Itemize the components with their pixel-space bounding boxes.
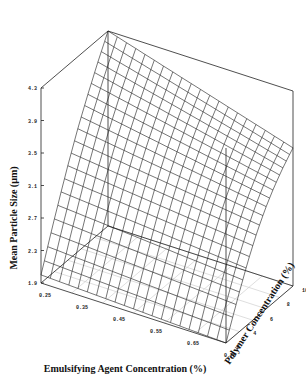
x-tick-label: 0.65: [187, 341, 199, 347]
y-tick-label: 2.3: [28, 249, 37, 255]
y-tick-label: 2.7: [28, 216, 37, 222]
x-tick-label: 0.25: [39, 293, 51, 299]
x-tick-label: 0.55: [150, 329, 162, 335]
z-tick-label: 4: [253, 331, 256, 337]
y-axis-label: Mean Particle Size (µm): [8, 166, 20, 269]
z-tick-label: 6: [270, 317, 273, 323]
x-axis-ticks: 0.250.350.450.550.650.75: [39, 293, 236, 359]
y-tick-label: 4.3: [28, 86, 37, 92]
x-axis-label: Emulsifying Agent Concentration (%): [44, 363, 207, 375]
y-tick-label: 3.1: [28, 184, 37, 190]
x-tick-label: 0.35: [76, 305, 88, 311]
y-tick-label: 3.9: [28, 119, 37, 125]
x-tick-label: 0.45: [113, 317, 125, 323]
y-tick-label: 1.9: [28, 281, 37, 287]
surface-mesh: [41, 31, 293, 343]
z-tick-label: 10: [302, 288, 306, 294]
y-axis-ticks: 1.92.32.73.13.53.94.3: [28, 86, 44, 287]
z-tick-label: 8: [287, 302, 290, 308]
surface-plot: 1.92.32.73.13.53.94.3 0.250.350.450.550.…: [0, 0, 306, 386]
y-tick-label: 3.5: [28, 151, 37, 157]
